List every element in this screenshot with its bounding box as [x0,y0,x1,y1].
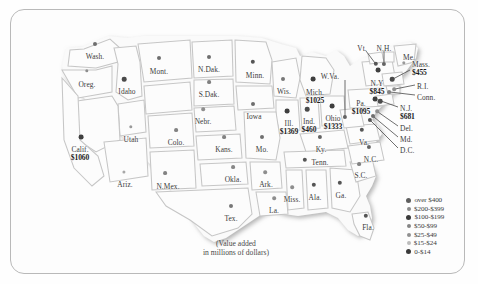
legend-swatch-icon-5 [407,241,411,245]
state-dot-iowa [251,102,255,106]
state-dot-mont [157,56,161,60]
state-name-ala: Ala. [309,194,322,202]
state-label-r-i: R.I. [417,83,429,91]
state-name-va: Va. [359,139,369,147]
map-page: Wash.Oreg.IdahoMont.N.Dak.S.Dak.Minn.Wis… [0,0,478,284]
state-name-minn: Minn. [246,72,264,80]
state-name-miss: Miss. [284,196,301,204]
state-name-colo: Colo. [168,139,185,147]
state-value-n-j: $681 [400,113,415,121]
state-dot-okla [231,165,235,169]
state-name-tex: Tex. [224,215,237,223]
legend-label-2: $100-$199 [414,213,444,221]
state-label-mo: Mo. [256,146,268,154]
state-label-miss: Miss. [284,196,301,204]
state-label-wash: Wash. [86,53,105,61]
state-dot-nebr [201,107,205,111]
state-name-w-va: W.Va. [321,73,339,81]
state-dot-del [375,109,379,113]
state-dot-miss [290,185,294,189]
state-value-n-y: $845 [370,88,385,96]
state-name-s-dak: S.Dak. [199,91,220,99]
caption-line-1: (Value added [216,239,256,248]
state-label-ind: Ind.$460 [302,118,317,134]
state-dot-n-y [376,68,381,73]
state-name-oreg: Oreg. [78,81,95,89]
state-name-ariz: Ariz. [117,181,132,189]
state-dot-wis [281,77,285,81]
map-stage: Wash.Oreg.IdahoMont.N.Dak.S.Dak.Minn.Wis… [0,0,478,284]
state-label-iowa: Iowa [246,113,261,121]
state-name-r-i: R.I. [417,83,429,91]
state-label-ky: Ky. [316,146,327,154]
state-dot-md [371,114,375,118]
state-label-n-y: N.Y$845 [370,80,385,96]
state-value-mass: $455 [412,69,430,77]
state-dot-la [272,196,276,200]
legend-swatch-icon-1 [407,207,412,212]
state-dot-calif [79,135,84,140]
state-name-mont: Mont. [150,68,168,76]
state-dot-r-i [392,87,396,91]
state-label-minn: Minn. [246,72,264,80]
state-label-conn: Conn. [417,94,435,102]
legend-row-3: $50-$99 [406,222,468,231]
state-name-mo: Mo. [256,146,268,154]
state-label-n-mex: N.Mex. [156,183,179,191]
state-label-w-va: W.Va. [321,73,339,81]
state-name-n-mex: N.Mex. [156,183,179,191]
state-value-ill: $1369 [280,128,299,136]
state-name-idaho: Idaho [118,88,135,96]
state-label-la: La. [269,207,279,215]
state-name-utah: Utah [124,136,139,144]
legend-row-5: $15-$24 [406,239,468,248]
state-label-tex: Tex. [224,215,237,223]
state-name-ga: Ga. [336,192,347,200]
legend-swatch-icon-6 [406,249,411,254]
state-label-oreg: Oreg. [78,81,95,89]
state-label-ark: Ark. [259,181,273,189]
state-label-n-c: N.C. [364,156,378,164]
state-dot-n-mex [163,171,167,175]
legend-swatch-icon-0 [406,198,411,203]
state-name-d-c: D.C. [400,147,414,155]
legend-row-4: $25-$49 [406,230,468,239]
state-name-iowa: Iowa [246,113,261,121]
state-dot-ohio [330,104,335,109]
state-name-del: Del. [400,125,413,133]
legend-swatch-icon-4 [407,233,411,237]
state-name-tenn: Tenn. [311,159,328,167]
state-name-n-h: N.H. [377,45,392,53]
state-name-s-c: S.C. [354,172,367,180]
state-dot-mich [311,77,316,82]
state-label-n-dak: N.Dak. [198,66,220,74]
state-value-mich: $1025 [306,97,325,105]
legend-label-5: $15-$24 [414,239,437,247]
map-legend: over $400$200-$399$100-$199$50-$99$25-$4… [406,196,468,256]
legend-row-2: $100-$199 [406,213,468,222]
state-label-colo: Colo. [168,139,185,147]
state-name-vt: Vt. [357,45,367,53]
state-name-wis: Wis. [277,88,291,96]
state-name-md: Md. [400,136,412,144]
state-dot-mo [260,135,264,139]
state-label-s-c: S.C. [354,172,367,180]
state-name-conn: Conn. [417,94,435,102]
state-dot-s-c [357,162,361,166]
state-label-del: Del. [400,125,413,133]
state-name-wash: Wash. [86,53,105,61]
state-name-okla: Okla. [225,176,242,184]
state-dot-ind [305,107,310,112]
state-value-ohio: $1333 [324,123,343,131]
state-name-n-dak: N.Dak. [198,66,220,74]
state-value-calif: $1060 [71,154,90,162]
state-name-n-c: N.C. [364,156,378,164]
state-label-nebr: Nebr. [195,118,212,126]
legend-label-1: $200-$399 [414,205,444,213]
state-label-pa: Pa.$1095 [352,100,371,116]
state-label-utah: Utah [124,136,139,144]
state-label-va: Va. [359,139,369,147]
legend-label-3: $50-$99 [414,222,437,230]
state-label-ohio: Ohio$1333 [324,115,343,131]
state-dot-kans [222,135,226,139]
